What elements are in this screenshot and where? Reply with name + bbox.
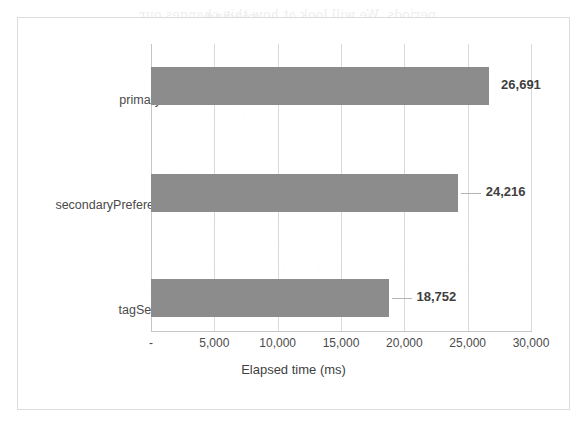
xtick-label-30000: 30,000 — [513, 336, 550, 350]
category-label-secondaryPrefered: secondaryPrefered — [55, 198, 161, 212]
value-label-primary: 26,691 — [501, 77, 541, 92]
xtick-label-20000: 20,000 — [386, 336, 423, 350]
chart-frame: primary secondaryPrefered tagSets 26,691… — [17, 17, 570, 410]
x-axis-title: Elapsed time (ms) — [18, 362, 569, 377]
xtick-label-15000: 15,000 — [323, 336, 360, 350]
xtick-label-25000: 25,000 — [449, 336, 486, 350]
value-label-secondaryPrefered: 24,216 — [486, 184, 526, 199]
bar-secondaryPrefered[interactable] — [151, 174, 458, 212]
xtick-label-10000: 10,000 — [259, 336, 296, 350]
xtick-label-5000: 5,000 — [199, 336, 229, 350]
leader-line-tagSets — [392, 298, 412, 299]
value-label-tagSets: 18,752 — [417, 289, 457, 304]
xtick-label-0: - — [149, 336, 153, 350]
bar-primary[interactable] — [151, 67, 489, 105]
bar-tagSets[interactable] — [151, 279, 389, 317]
x-axis-line — [151, 331, 532, 332]
category-axis-labels: primary secondaryPrefered tagSets — [35, 18, 161, 409]
leader-line-secondaryPrefered — [461, 193, 481, 194]
